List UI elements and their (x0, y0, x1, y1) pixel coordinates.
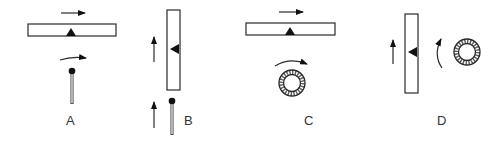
panel-label-a: A (66, 113, 75, 128)
panel-c: C (246, 12, 335, 128)
pin-head (169, 98, 176, 105)
panel-b: B (154, 10, 193, 135)
panel-label-b: B (184, 113, 193, 128)
gear-ring (279, 70, 305, 96)
pin-head (69, 68, 76, 75)
panel-label-c: C (304, 113, 313, 128)
gear-ring (454, 39, 480, 65)
diagram-canvas: A B C D (0, 0, 498, 142)
rotation-arrow-counterclockwise (437, 39, 442, 68)
rotation-arrow-clockwise (275, 61, 307, 66)
panel-a: A (28, 13, 116, 128)
panel-d: D (393, 14, 480, 128)
rotation-arrow-clockwise (60, 57, 86, 60)
panel-label-d: D (437, 113, 446, 128)
